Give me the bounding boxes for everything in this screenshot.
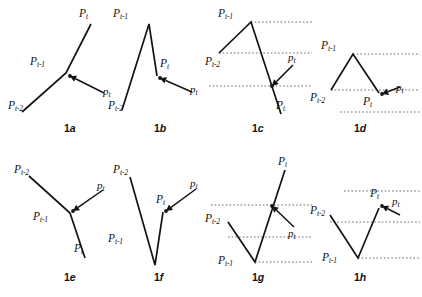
panel-caption-1c: 1c — [252, 122, 264, 134]
trajectory-1h — [330, 208, 379, 258]
label-pt-1a: Pt — [79, 8, 88, 20]
label-pt-1f: Pt — [156, 194, 165, 206]
label-pt-1-1e: Pt-1 — [33, 211, 48, 223]
candidate-arrow-shaft-1h — [388, 209, 400, 215]
label-pt-2-1h: Pt-2 — [310, 205, 325, 217]
label-candidate-pt-1c: pt — [288, 52, 295, 63]
label-candidate-pt-1d: pt — [396, 82, 403, 93]
candidate-arrow-shaft-1c — [276, 65, 293, 82]
candidate-arrow-shaft-1b — [166, 80, 192, 92]
label-pt-1g: Pt — [278, 156, 287, 168]
candidate-arrow-shaft-1g — [276, 210, 294, 227]
label-pt-1-1b: Pt-1 — [113, 8, 128, 20]
label-pt-2-1e: Pt-2 — [14, 164, 29, 176]
label-pt-1b: Pt — [160, 58, 169, 70]
label-candidate-pt-1b: pt — [190, 84, 197, 95]
label-pt-2-1g: Pt-2 — [205, 213, 220, 225]
label-candidate-pt-1f: pt — [190, 178, 197, 189]
diagram-canvas — [0, 0, 422, 297]
label-pt-1e: Pt — [74, 243, 83, 255]
label-pt-1-1d: Pt-1 — [321, 40, 336, 52]
trajectory-1c — [219, 22, 281, 114]
label-candidate-pt-1e: pt — [97, 180, 104, 191]
candidate-arrow-shaft-1a — [76, 79, 104, 93]
label-candidate-pt-1a: pt — [103, 86, 110, 97]
panel-caption-1g: 1g — [252, 271, 264, 283]
figure-root: ptPtPt-1Pt-21aptPt-1PtPt-21bptPt-1Pt-2Pt… — [0, 0, 422, 297]
panel-caption-1a: 1a — [64, 122, 76, 134]
label-candidate-pt-1g: pt — [288, 228, 295, 239]
panel-caption-1b: 1b — [154, 122, 166, 134]
label-pt-1-1f: Pt-1 — [108, 233, 123, 245]
candidate-arrow-head-1e — [73, 205, 80, 211]
label-pt-2-1c: Pt-2 — [205, 56, 220, 68]
label-pt-2-1f: Pt-2 — [113, 164, 128, 176]
trajectory-1f — [130, 177, 163, 265]
label-candidate-pt-1h: pt — [392, 196, 399, 207]
label-pt-2-1b: Pt-2 — [108, 100, 123, 112]
trajectory-1d — [331, 54, 379, 93]
panel-caption-1d: 1d — [354, 122, 366, 134]
label-pt-1c: Pt — [276, 100, 285, 112]
candidate-arrow-shaft-1e — [78, 190, 103, 207]
panel-caption-1e: 1e — [64, 271, 76, 283]
label-pt-1-1g: Pt-1 — [218, 255, 233, 267]
panel-caption-1f: 1f — [154, 271, 163, 283]
label-pt-1-1c: Pt-1 — [218, 8, 233, 20]
label-pt-1-1h: Pt-1 — [322, 252, 337, 264]
label-pt-1h: Pt — [370, 188, 379, 200]
label-pt-2-1d: Pt-2 — [310, 92, 325, 104]
trajectory-1a — [22, 24, 91, 112]
label-pt-1d: Pt — [363, 96, 372, 108]
trajectory-1b — [122, 24, 157, 110]
trajectory-1g — [228, 170, 285, 262]
label-pt-1-1a: Pt-1 — [30, 56, 45, 68]
candidate-arrow-head-1f — [166, 205, 173, 211]
candidate-arrow-shaft-1f — [171, 189, 196, 207]
label-pt-2-1a: Pt-2 — [8, 100, 23, 112]
panel-caption-1h: 1h — [354, 271, 366, 283]
